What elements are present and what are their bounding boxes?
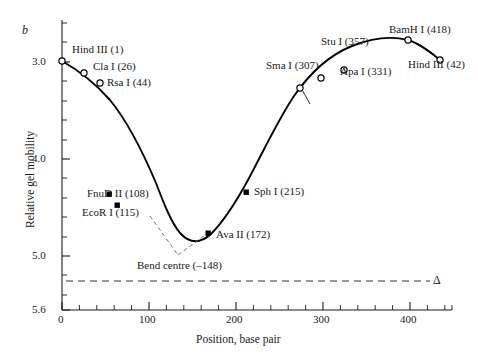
marker-hind-iii-1 bbox=[59, 58, 65, 64]
marker-apa-i-331 bbox=[318, 75, 324, 81]
point-label-hind-iii-1: Hind III (1) bbox=[72, 44, 123, 55]
marker-cla-i-26 bbox=[81, 70, 87, 76]
point-label-apa-i-331: Apa I (331) bbox=[340, 66, 391, 77]
point-label-sma-i-307: Sma I (307) bbox=[266, 60, 319, 71]
bend-centre-label: Bend centre (–148) bbox=[137, 260, 222, 271]
y-tick-label-5-6: 5.6 bbox=[32, 304, 46, 315]
point-label-sph-i-215: Sph I (215) bbox=[254, 186, 304, 197]
x-tick-label-400: 400 bbox=[400, 314, 417, 325]
delta-label: Δ bbox=[433, 274, 441, 286]
y-tick-label-5-0: 5.0 bbox=[32, 250, 46, 261]
x-tick-label-300: 300 bbox=[313, 314, 330, 325]
point-label-cla-i-26: Cla I (26) bbox=[93, 61, 136, 72]
marker-ava-ii-172 bbox=[206, 231, 211, 236]
point-label-stu-i-357: Stu I (357) bbox=[321, 36, 369, 47]
x-tick-label-200: 200 bbox=[226, 314, 243, 325]
point-label-ava-ii-172: Ava II (172) bbox=[216, 229, 270, 240]
y-tick-label-3-0: 3.0 bbox=[32, 56, 46, 67]
panel-label: b bbox=[22, 24, 28, 36]
point-label-bamh-i-418: BamH I (418) bbox=[389, 24, 451, 35]
point-label-ecor-i-115: EcoR I (115) bbox=[82, 207, 139, 218]
point-label-rsa-i-44: Rsa I (44) bbox=[107, 77, 151, 88]
marker-sma-i-307 bbox=[297, 85, 303, 91]
x-tick-label-100: 100 bbox=[139, 314, 156, 325]
y-axis-major-ticks bbox=[62, 62, 70, 310]
marker-bamh-i-418 bbox=[405, 37, 411, 43]
figure-panel-b: b 3.0 4.0 5.0 5.6 0 100 200 300 400 Posi… bbox=[0, 0, 478, 356]
x-tick-label-0: 0 bbox=[58, 314, 64, 325]
x-axis-minor-ticks bbox=[79, 305, 452, 310]
x-axis-title: Position, base pair bbox=[196, 334, 281, 346]
point-label-hind-iii-42: Hind III (42) bbox=[408, 59, 465, 70]
marker-sph-i-215 bbox=[244, 190, 249, 195]
marker-rsa-i-44 bbox=[97, 80, 103, 86]
point-label-fnud-ii-108: FnuD II (108) bbox=[87, 188, 149, 199]
y-axis-title: Relative gel mobility bbox=[24, 131, 36, 228]
bend-centre-leader bbox=[150, 216, 208, 255]
